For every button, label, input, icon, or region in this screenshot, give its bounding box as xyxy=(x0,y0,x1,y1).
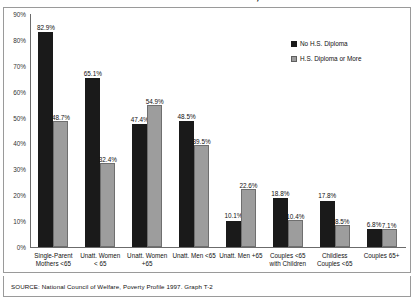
bar-value-label: 65.1% xyxy=(84,70,102,77)
bar-hs-diploma-or-more: 22.6% xyxy=(241,189,256,248)
x-category-label-line: Couples 65+ xyxy=(352,252,411,260)
y-tick-label: 70% xyxy=(13,62,26,69)
bar-no-hs-diploma: 10.1% xyxy=(226,221,241,247)
legend-label-1: H.S. Diploma or More xyxy=(300,55,361,62)
bar-no-hs-diploma: 82.9% xyxy=(38,32,53,247)
bar-hs-diploma-or-more: 39.5% xyxy=(194,145,209,247)
bar-value-label: 32.4% xyxy=(99,156,117,163)
bar-hs-diploma-or-more: 7.1% xyxy=(382,229,397,247)
bar-hs-diploma-or-more: 48.7% xyxy=(53,121,68,247)
chart-title: and Level of Education, 1997 xyxy=(0,0,415,2)
bar-value-label: 6.8% xyxy=(367,221,382,228)
y-tick-label: 0% xyxy=(17,244,26,251)
bar-no-hs-diploma: 18.8% xyxy=(273,198,288,247)
legend-label-0: No H.S. Diploma xyxy=(300,40,348,47)
bar-hs-diploma-or-more: 8.5% xyxy=(335,225,350,247)
x-category-label-line: +65 xyxy=(118,260,177,268)
bar-hs-diploma-or-more: 54.9% xyxy=(147,105,162,247)
bar-value-label: 54.9% xyxy=(146,98,164,105)
bar-group: 82.9%48.7% xyxy=(30,14,77,247)
bar-group: 10.1%22.6% xyxy=(218,14,265,247)
bar-value-label: 8.5% xyxy=(335,218,350,225)
bar-group: 6.8%7.1% xyxy=(358,14,405,247)
legend-swatch-icon-dark xyxy=(291,41,297,47)
bar-no-hs-diploma: 6.8% xyxy=(367,229,382,247)
bar-group: 65.1%32.4% xyxy=(77,14,124,247)
bar-value-label: 48.5% xyxy=(178,113,196,120)
bar-value-label: 22.6% xyxy=(239,182,257,189)
bar-value-label: 17.8% xyxy=(318,192,336,199)
legend-item-hs-diploma-or-more: H.S. Diploma or More xyxy=(291,55,361,62)
bar-hs-diploma-or-more: 32.4% xyxy=(100,163,115,247)
y-tick-label: 20% xyxy=(13,192,26,199)
bar-value-label: 47.4% xyxy=(131,116,149,123)
x-category-label: Couples 65+ xyxy=(352,252,411,260)
y-tick-label: 10% xyxy=(13,218,26,225)
y-tick-label: 60% xyxy=(13,88,26,95)
y-tick-label: 40% xyxy=(13,140,26,147)
legend-swatch-icon-light xyxy=(291,56,297,62)
x-category-label-line: Couples <65 xyxy=(305,260,364,268)
bar-value-label: 7.1% xyxy=(382,222,397,229)
legend-item-no-hs-diploma: No H.S. Diploma xyxy=(291,40,361,47)
bar-value-label: 48.7% xyxy=(52,114,70,121)
bar-no-hs-diploma: 17.8% xyxy=(320,201,335,247)
bar-no-hs-diploma: 47.4% xyxy=(132,124,147,247)
bar-value-label: 39.5% xyxy=(193,138,211,145)
y-tick-label: 80% xyxy=(13,36,26,43)
y-tick-label: 30% xyxy=(13,166,26,173)
source-note: SOURCE: National Council of Welfare, Pov… xyxy=(3,276,411,297)
y-tick-label: 50% xyxy=(13,114,26,121)
bar-group: 47.4%54.9% xyxy=(124,14,171,247)
bar-hs-diploma-or-more: 10.4% xyxy=(288,220,303,247)
source-text: SOURCE: National Council of Welfare, Pov… xyxy=(4,283,213,290)
bar-value-label: 10.4% xyxy=(286,213,304,220)
bar-value-label: 82.9% xyxy=(37,24,55,31)
chart-screenshot: and Level of Education, 1997 0%10%20%30%… xyxy=(0,0,415,301)
bar-value-label: 10.1% xyxy=(224,212,242,219)
y-tick-label: 90% xyxy=(13,11,26,18)
x-axis-line xyxy=(30,247,406,248)
chart-legend: No H.S. Diploma H.S. Diploma or More xyxy=(291,40,361,70)
bar-value-label: 18.8% xyxy=(271,190,289,197)
bar-group: 48.5%39.5% xyxy=(171,14,218,247)
